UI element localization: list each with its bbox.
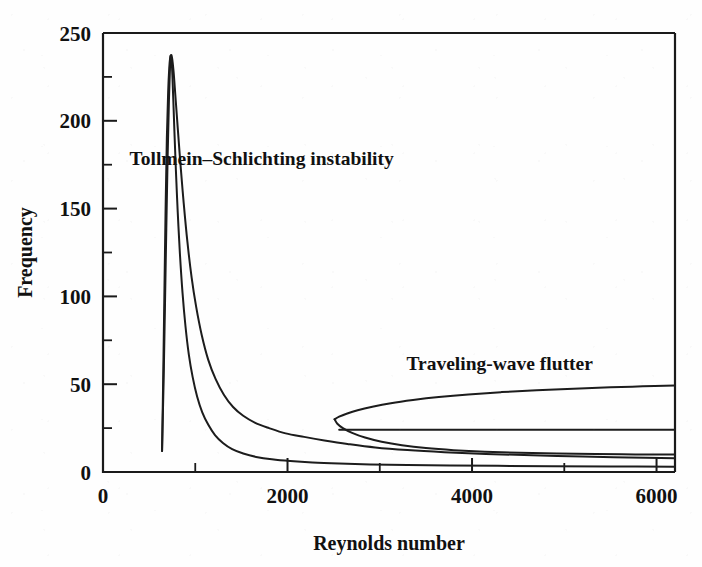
chart-container: 0501001502002500200040006000Tollmein–Sch… bbox=[0, 0, 702, 567]
y-axis-title: Frequency bbox=[14, 207, 37, 298]
curve-tollmein-schlichting-instability-neutral-curve-lower-branch bbox=[162, 56, 675, 467]
y-tick-label: 0 bbox=[81, 461, 92, 485]
x-tick-label: 4000 bbox=[451, 484, 493, 508]
frequency-vs-reynolds-chart: 0501001502002500200040006000Tollmein–Sch… bbox=[0, 0, 702, 567]
y-tick-label: 150 bbox=[60, 197, 92, 221]
traveling-wave-flutter-label: Traveling-wave flutter bbox=[406, 353, 593, 374]
x-tick-label: 6000 bbox=[636, 484, 678, 508]
x-tick-label: 2000 bbox=[267, 484, 309, 508]
y-tick-label: 250 bbox=[60, 22, 92, 46]
curve-tollmein-schlichting-instability-neutral-curve-upper-branch bbox=[162, 55, 675, 458]
y-tick-label: 50 bbox=[70, 373, 91, 397]
y-tick-label: 200 bbox=[60, 109, 92, 133]
y-tick-label: 100 bbox=[60, 285, 92, 309]
x-tick-label: 0 bbox=[98, 484, 109, 508]
curve-traveling-wave-flutter-boundary-upper-branch bbox=[335, 385, 675, 419]
tollmein-schlichting-label: Tollmein–Schlichting instability bbox=[130, 148, 394, 169]
x-axis-title: Reynolds number bbox=[313, 532, 465, 555]
